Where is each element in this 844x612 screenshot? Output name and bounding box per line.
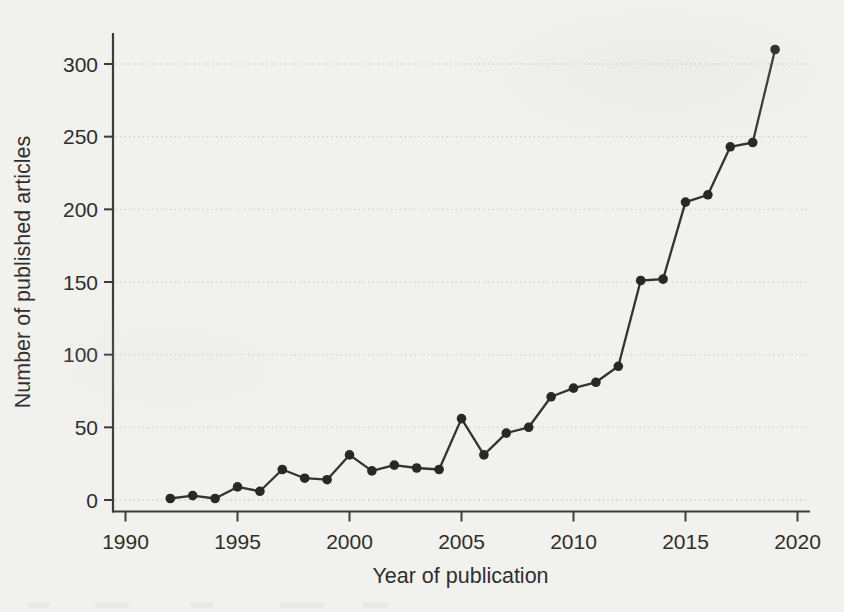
data-point-2014 — [658, 274, 668, 284]
data-point-2009 — [546, 392, 556, 402]
data-point-2015 — [681, 197, 691, 207]
data-point-2003 — [412, 463, 422, 473]
data-point-2012 — [614, 362, 624, 372]
data-points — [166, 45, 780, 504]
data-point-2002 — [390, 460, 400, 470]
x-tick-label: 2000 — [326, 530, 373, 553]
x-tick-label: 1990 — [102, 530, 149, 553]
data-point-2010 — [569, 383, 579, 393]
y-tick-label: 200 — [63, 198, 98, 221]
data-point-2018 — [748, 138, 758, 148]
data-point-1992 — [166, 494, 176, 504]
x-axis-title: Year of publication — [372, 564, 548, 588]
data-point-1994 — [210, 494, 220, 504]
data-point-2016 — [703, 190, 713, 200]
y-tick-label: 0 — [86, 489, 98, 512]
x-tick-label: 2010 — [550, 530, 597, 553]
data-point-2011 — [591, 378, 601, 388]
data-point-2006 — [479, 450, 489, 460]
data-point-2001 — [367, 466, 377, 476]
data-point-1996 — [255, 487, 265, 497]
data-point-2019 — [770, 45, 780, 55]
x-axis-ticks-labels: 1990199520002005201020152020 — [102, 512, 821, 554]
data-point-2004 — [434, 465, 444, 475]
scanned-figure-page: 0501001502002503001990199520002005201020… — [0, 0, 844, 612]
data-point-2017 — [726, 142, 736, 152]
y-tick-label: 150 — [63, 271, 98, 294]
y-tick-label: 300 — [63, 53, 98, 76]
x-tick-label: 2015 — [662, 530, 709, 553]
y-tick-label: 50 — [75, 416, 98, 439]
data-point-1993 — [188, 491, 198, 501]
data-point-1995 — [233, 482, 243, 492]
data-point-2005 — [457, 414, 467, 424]
y-tick-label: 250 — [63, 125, 98, 148]
axes — [112, 33, 810, 513]
data-point-2013 — [636, 276, 646, 286]
data-point-2008 — [524, 423, 534, 433]
y-axis-ticks-labels: 050100150200250300 — [63, 53, 113, 512]
x-tick-label: 2005 — [438, 530, 485, 553]
y-gridlines — [115, 64, 808, 500]
data-point-1998 — [300, 473, 310, 483]
x-tick-label: 1995 — [214, 530, 261, 553]
data-point-2000 — [345, 450, 355, 460]
data-point-2007 — [502, 428, 512, 438]
y-tick-label: 100 — [63, 343, 98, 366]
y-axis-title: Number of published articles — [11, 136, 35, 408]
data-line — [170, 50, 775, 499]
data-point-1997 — [278, 465, 288, 475]
publication-trend-line-chart: 0501001502002503001990199520002005201020… — [0, 0, 844, 612]
x-tick-label: 2020 — [774, 530, 821, 553]
data-point-1999 — [322, 475, 332, 485]
